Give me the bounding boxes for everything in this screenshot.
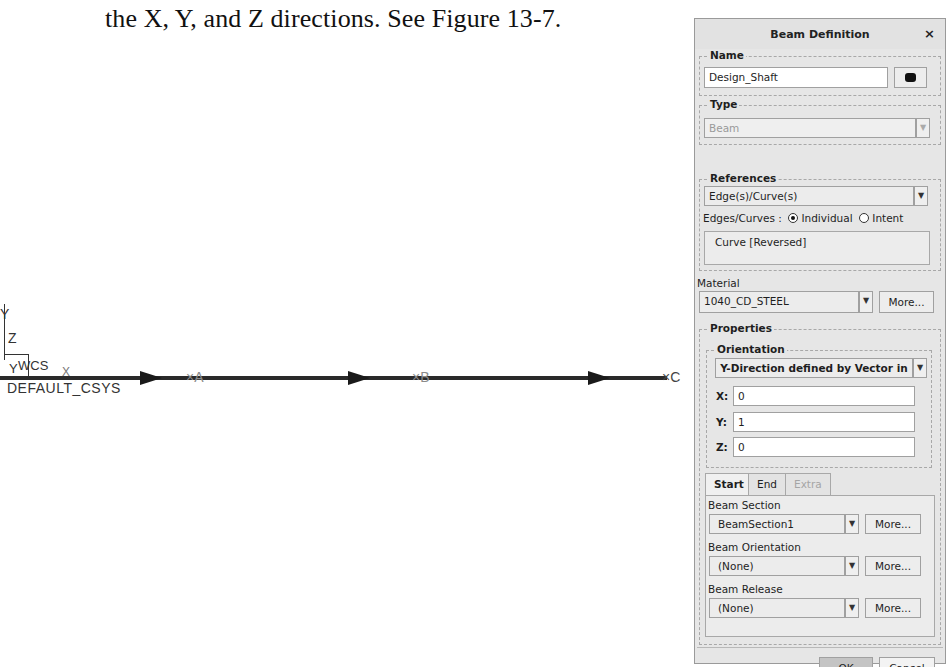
tab-end[interactable]: End [748, 473, 786, 495]
edges-curves-radio-row: Edges/Curves : Individual Intent [703, 212, 903, 224]
type-select: Beam [704, 118, 916, 138]
wcs-y-label: Y [9, 361, 18, 376]
chevron-down-icon: ▼ [916, 118, 930, 138]
cancel-button[interactable]: Cancel [879, 657, 935, 667]
beam-orientation-label: Beam Orientation [708, 541, 801, 553]
orientation-select[interactable]: Y-Direction defined by Vector in [715, 358, 913, 378]
tab-start[interactable]: Start [705, 473, 753, 496]
material-more-button[interactable]: More... [879, 291, 934, 313]
name-group-label: Name [708, 49, 746, 61]
dialog-titlebar[interactable]: Beam Definition × [695, 19, 945, 49]
z-label: Z: [716, 441, 728, 453]
edges-curves-label: Edges/Curves : [703, 212, 782, 224]
x-label: X: [716, 390, 728, 402]
tab-bar: Start End Extra [705, 473, 935, 496]
chevron-down-icon[interactable]: ▼ [845, 514, 859, 534]
beam-section-more-button[interactable]: More... [865, 514, 921, 534]
x-input[interactable]: 0 [733, 386, 915, 406]
z-input[interactable]: 0 [733, 437, 915, 457]
point-a-label[interactable]: ×A [186, 369, 204, 385]
references-collector[interactable]: Curve [Reversed] [704, 231, 930, 265]
default-csys-label: DEFAULT_CSYS [7, 380, 121, 396]
beam-orientation-more-button[interactable]: More... [865, 556, 921, 576]
beam-curve[interactable] [0, 376, 667, 380]
chevron-down-icon[interactable]: ▼ [845, 556, 859, 576]
y-input[interactable]: 1 [733, 412, 915, 432]
collector-item[interactable]: Curve [Reversed] [715, 236, 919, 248]
direction-arrow-icon [348, 371, 370, 385]
beam-orientation-select[interactable]: (None) [709, 556, 845, 576]
wcs-box-top [4, 354, 28, 355]
beam-release-label: Beam Release [708, 583, 783, 595]
direction-arrow-icon [588, 371, 610, 385]
radio-intent[interactable] [859, 213, 869, 223]
y-axis-label: Y [0, 306, 9, 322]
material-select[interactable]: 1040_CD_STEEL [699, 291, 859, 313]
properties-group-label: Properties [708, 322, 774, 334]
beam-definition-dialog: Beam Definition × Name Design_Shaft Type… [694, 18, 946, 664]
radio-intent-label[interactable]: Intent [872, 212, 903, 224]
graphics-viewport[interactable]: Y Z Y WCS X DEFAULT_CSYS ×A ×B ×C [0, 60, 690, 667]
wcs-label: WCS [18, 358, 48, 373]
figure-caption: the X, Y, and Z directions. See Figure 1… [105, 4, 561, 34]
beam-section-label: Beam Section [708, 499, 781, 511]
type-group-label: Type [708, 98, 739, 110]
ok-button[interactable]: OK [819, 657, 873, 667]
name-input[interactable]: Design_Shaft [704, 67, 888, 88]
direction-arrow-icon [140, 371, 162, 385]
color-swatch-icon [905, 73, 916, 82]
dialog-separator [697, 647, 943, 648]
radio-individual[interactable] [788, 213, 798, 223]
tab-extra: Extra [785, 473, 831, 495]
orientation-group-label: Orientation [715, 343, 787, 355]
chevron-down-icon[interactable]: ▼ [913, 358, 927, 378]
beam-release-select[interactable]: (None) [709, 598, 845, 618]
chevron-down-icon[interactable]: ▼ [914, 186, 928, 206]
point-b-label[interactable]: ×B [412, 369, 430, 385]
chevron-down-icon[interactable]: ▼ [845, 598, 859, 618]
radio-individual-label[interactable]: Individual [801, 212, 852, 224]
beam-release-more-button[interactable]: More... [865, 598, 921, 618]
y-label: Y: [716, 416, 727, 428]
references-select[interactable]: Edge(s)/Curve(s) [704, 186, 914, 206]
references-group-label: References [708, 172, 778, 184]
material-label: Material [697, 277, 740, 289]
color-button[interactable] [894, 67, 927, 88]
dialog-title: Beam Definition [695, 28, 945, 41]
z-axis-label: Z [8, 330, 17, 346]
chevron-down-icon[interactable]: ▼ [859, 291, 873, 313]
beam-section-select[interactable]: BeamSection1 [709, 514, 845, 534]
close-icon[interactable]: × [924, 26, 935, 41]
point-c-label[interactable]: ×C [662, 369, 680, 385]
